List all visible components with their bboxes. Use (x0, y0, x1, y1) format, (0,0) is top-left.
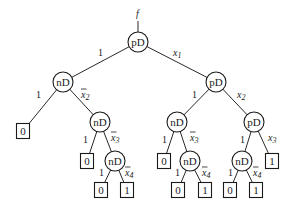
edge-label-subscript: 4 (257, 171, 261, 180)
terminal-leaf-0: 0 (17, 124, 30, 139)
leaf-value: 1 (269, 155, 275, 167)
edge-label: x3 (110, 132, 119, 145)
edge-label: x4 (252, 167, 261, 180)
root-output-label: f (136, 8, 140, 19)
edge-n5-l9 (258, 131, 268, 153)
edge-n8-l8 (246, 170, 252, 182)
terminal-leaf-0: 0 (224, 183, 237, 198)
leaf-value: 0 (175, 184, 181, 196)
edge-label-subscript: 2 (85, 93, 89, 102)
decision-diagram: f pDnDpDnDnDpDnDnDnD 0001001011 1x11x21x… (0, 0, 293, 211)
edge-label: 1 (192, 89, 197, 100)
leaf-value: 0 (227, 184, 233, 196)
leaf-value: 0 (98, 184, 104, 196)
edge-n1-l0 (29, 90, 57, 124)
edge-label: 1 (98, 47, 103, 58)
decomposition-node-nD: nD (180, 151, 200, 171)
edge-label: 1 (228, 167, 233, 178)
leaf-value: 1 (202, 184, 208, 196)
edge-n4-l4 (167, 131, 174, 153)
edge-label-subscript: 3 (271, 136, 276, 145)
edge-label: 1 (36, 89, 41, 100)
leaf-value: 0 (84, 155, 90, 167)
edge-label-subscript: 3 (193, 136, 198, 145)
terminal-leaf-0: 0 (158, 154, 171, 169)
decomposition-node-pD: pD (128, 32, 148, 52)
decomposition-node-pD: pD (244, 112, 264, 132)
edge-n7-l5 (181, 170, 186, 182)
edge-label-subscript: 2 (241, 93, 245, 102)
edge-n6-l3 (119, 170, 124, 182)
decomposition-node-nD: nD (53, 72, 73, 92)
leaf-value: 1 (253, 184, 259, 196)
decomposition-node-pD: pD (206, 72, 226, 92)
edge-label: 1 (99, 167, 104, 178)
edge-n7-l6 (195, 170, 202, 183)
edge-label: x1 (172, 47, 181, 60)
terminal-leaf-1: 1 (250, 183, 263, 198)
node-label: pD (247, 116, 261, 128)
terminal-leaf-1: 1 (199, 183, 212, 198)
terminal-leaf-1: 1 (121, 183, 134, 198)
edge-n6-l2 (105, 170, 111, 182)
edge-label-subscript: 4 (129, 171, 133, 180)
edge-label: 1 (175, 167, 180, 178)
decomposition-node-nD: nD (105, 151, 125, 171)
decomposition-node-nD: nD (90, 112, 110, 132)
leaf-value: 1 (124, 184, 130, 196)
edge-label: x2 (80, 89, 89, 102)
edge-n8-l7 (233, 170, 238, 182)
edge-n3-l1 (90, 131, 97, 153)
edge-label: x2 (236, 89, 245, 102)
edge-label: 1 (240, 134, 245, 145)
edge-label: 1 (83, 134, 88, 145)
edge-label: x4 (201, 167, 210, 180)
node-label: nD (235, 155, 249, 167)
terminal-leaf-1: 1 (266, 154, 279, 169)
node-label: nD (56, 76, 70, 88)
node-label: pD (131, 36, 145, 48)
leaf-value: 0 (20, 125, 26, 137)
node-label: nD (93, 116, 107, 128)
node-label: nD (108, 155, 122, 167)
edge-label: x3 (189, 132, 198, 145)
node-label: nD (183, 155, 197, 167)
edge-label-subscript: 1 (177, 51, 181, 60)
edge-label: 1 (162, 134, 167, 145)
decomposition-node-nD: nD (167, 112, 187, 132)
node-label: nD (170, 116, 184, 128)
edge-label-subscript: 3 (114, 136, 119, 145)
node-label: pD (209, 76, 223, 88)
edge-label: x3 (267, 132, 276, 145)
decomposition-node-nD: nD (232, 151, 252, 171)
terminal-leaf-0: 0 (172, 183, 185, 198)
edge-n5-n8 (245, 132, 251, 152)
decision-diagram-canvas: f pDnDpDnDnDpDnDnDnD 0001001011 1x11x21x… (0, 0, 293, 211)
leaf-value: 0 (161, 155, 167, 167)
terminal-leaf-0: 0 (81, 154, 94, 169)
edge-n4-n7 (180, 131, 187, 151)
edge-label-subscript: 4 (206, 171, 210, 180)
root-output: f (136, 8, 140, 32)
edge-label: x4 (124, 167, 133, 180)
terminal-leaf-0: 0 (95, 183, 108, 198)
